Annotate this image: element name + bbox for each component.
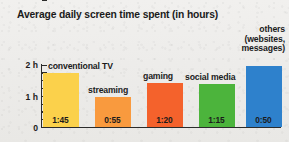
bar-label-gaming: gaming xyxy=(143,72,173,82)
bar-label-others: others (websites, messages) xyxy=(205,25,285,54)
bar-label-social-media: social media xyxy=(185,73,235,83)
y-axis-label-1h: 1 h xyxy=(14,92,38,102)
bar-value-streaming: 0:55 xyxy=(95,115,131,125)
bar-label-streaming: streaming xyxy=(88,86,128,96)
bar-label-others-line3: messages) xyxy=(205,44,285,54)
bar-others[interactable]: 0:50 xyxy=(246,66,282,127)
bar-value-others: 0:50 xyxy=(246,115,282,125)
y-axis-label-2h: 2 h xyxy=(14,60,38,70)
x-axis-line xyxy=(41,127,281,128)
bar-social-media[interactable]: 1:15 xyxy=(199,84,235,127)
y-tick-major-2h xyxy=(42,65,47,66)
bar-value-conventional-tv: 1:45 xyxy=(43,115,79,125)
bar-gaming[interactable]: 1:20 xyxy=(147,83,183,127)
plot-area: 2 h 1 h 0 conventional TV 1:45 streaming… xyxy=(0,0,289,142)
bar-conventional-tv[interactable]: 1:45 xyxy=(43,73,79,127)
chart-card: Average daily screen time spent (in hour… xyxy=(0,0,289,142)
y-tick-minor xyxy=(42,0,47,1)
bar-value-gaming: 1:20 xyxy=(147,115,183,125)
y-axis-label-0: 0 xyxy=(14,123,38,133)
bar-value-social-media: 1:15 xyxy=(199,115,235,125)
bar-label-conventional-tv: conventional TV xyxy=(48,62,113,72)
bar-streaming[interactable]: 0:55 xyxy=(95,97,131,127)
